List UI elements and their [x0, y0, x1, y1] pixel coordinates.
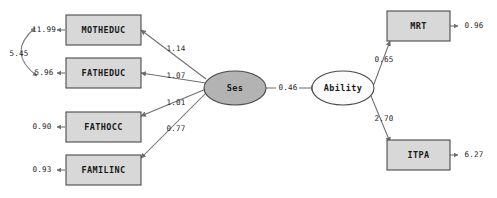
edge-label-path-ses-ability: 0.46 — [278, 83, 297, 92]
node-label-fatheduc: FATHEDUC — [81, 68, 125, 78]
node-label-familinc: FAMILINC — [81, 165, 125, 175]
edge-label-residual-fatheduc: 5.96 — [34, 68, 53, 77]
edge-label-loading-motheduc: 1.14 — [166, 44, 185, 53]
node-fatheduc: FATHEDUC — [66, 58, 141, 88]
edge-label-residual-motheduc: 11.99 — [32, 25, 56, 34]
sem-path-diagram: MOTHEDUC FATHEDUC FATHOCC FAMILINC MRT I… — [0, 0, 497, 198]
edge-label-residual-itpa: 6.27 — [464, 150, 483, 159]
node-fathocc: FATHOCC — [66, 112, 141, 142]
edge-label-loading-familinc: 0.77 — [166, 124, 185, 133]
node-label-fathocc: FATHOCC — [84, 122, 123, 132]
node-label-ses: Ses — [227, 83, 244, 93]
edge-label-covariance-motheduc-fatheduc: 5.45 — [9, 49, 28, 58]
node-ability: Ability — [312, 71, 374, 105]
node-motheduc: MOTHEDUC — [66, 15, 141, 45]
node-familinc: FAMILINC — [66, 155, 141, 185]
node-itpa: ITPA — [387, 140, 450, 170]
node-label-mrt: MRT — [410, 21, 427, 31]
edge-label-residual-mrt: 0.96 — [464, 21, 483, 30]
node-label-ability: Ability — [324, 83, 363, 93]
edge-label-loading-mrt: 0.65 — [374, 55, 393, 64]
node-ses: Ses — [204, 71, 266, 105]
edge-label-residual-familinc: 0.93 — [32, 165, 51, 174]
sem-diagram-canvas: MOTHEDUC FATHEDUC FATHOCC FAMILINC MRT I… — [0, 0, 497, 198]
edge-label-loading-fatheduc: 1.07 — [166, 71, 185, 80]
edge-label-loading-itpa: 2.70 — [374, 114, 393, 123]
edge-label-loading-fathocc: 1.01 — [166, 98, 185, 107]
edge-label-residual-fathocc: 0.90 — [32, 122, 51, 131]
node-mrt: MRT — [387, 11, 450, 41]
node-label-motheduc: MOTHEDUC — [81, 25, 125, 35]
node-label-itpa: ITPA — [407, 150, 429, 160]
